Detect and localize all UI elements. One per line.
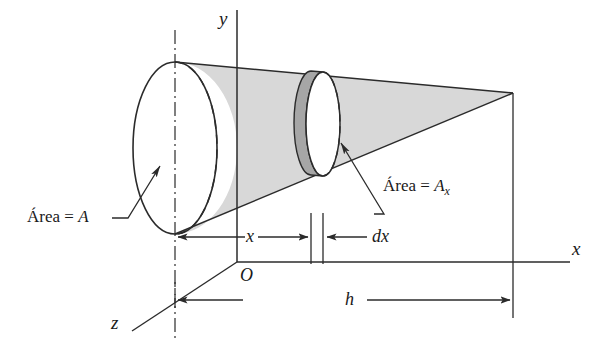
slice-area-label: Área = Ax <box>383 177 450 197</box>
base-area-prefix: Área = <box>27 207 78 226</box>
disc-element <box>294 71 340 176</box>
cone-integration-figure: y x z O x dx h Área = A Área = Ax <box>0 0 605 346</box>
dimension-x-label: x <box>246 227 254 245</box>
figure-drawing <box>0 0 605 346</box>
dimension-h <box>175 282 510 308</box>
z-axis-line <box>132 262 237 331</box>
leader-slice-area-elbow <box>370 191 384 214</box>
origin-label: O <box>240 266 253 284</box>
z-axis-label: z <box>111 313 118 332</box>
slice-area-variable: A <box>434 176 444 195</box>
slice-area-subscript: x <box>445 184 450 198</box>
disc-front-face <box>306 72 340 176</box>
y-axis-label: y <box>219 9 227 28</box>
leader-base-area-line <box>112 166 160 218</box>
x-axis-label: x <box>572 239 580 258</box>
base-area-variable: A <box>78 207 88 226</box>
leader-base-area <box>112 166 160 218</box>
base-ellipse-hidden-arc <box>175 62 217 234</box>
dimension-h-label: h <box>345 290 354 308</box>
coordinate-axes <box>132 10 570 331</box>
dimension-dx-label: dx <box>372 227 389 245</box>
slice-area-prefix: Área = <box>383 176 434 195</box>
base-area-label: Área = A <box>27 208 89 225</box>
